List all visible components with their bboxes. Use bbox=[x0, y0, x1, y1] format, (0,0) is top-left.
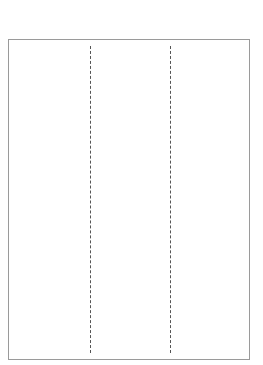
fold-line-left bbox=[90, 46, 91, 353]
fold-line-right bbox=[170, 46, 171, 353]
document-page bbox=[8, 39, 250, 360]
